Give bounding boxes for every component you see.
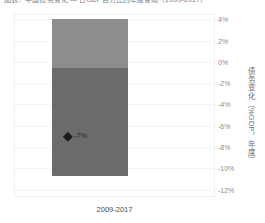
y-axis-tick-label: -2% [218, 80, 230, 87]
bar-segment-upper[interactable] [52, 19, 128, 68]
y-axis-title: 债务变化（%GDP，年度） [243, 9, 259, 223]
chart-figure: -7% 4%2%0%-2%-4%-6%-8%-10%-12% 债务变化（%GDP… [0, 9, 265, 223]
y-axis-tick-label: 2% [218, 37, 228, 44]
diamond-marker-icon [63, 131, 73, 141]
y-axis-tick-labels: 4%2%0%-2%-4%-6%-8%-10%-12% [218, 9, 242, 223]
stacked-bar[interactable] [52, 19, 128, 176]
gridline [15, 190, 214, 191]
data-point-label: -7% [74, 133, 87, 141]
y-axis-tick-label: 0% [218, 58, 228, 65]
data-point-marker-group[interactable]: -7% [64, 133, 87, 141]
y-axis-tick-label: -4% [218, 101, 230, 108]
y-axis-tick-label: -6% [218, 122, 230, 129]
y-axis-tick-label: -8% [218, 144, 230, 151]
plot-area: -7% [14, 14, 215, 197]
y-axis-title-text: 债务变化（%GDP，年度） [246, 67, 257, 165]
page-title: 图表：中国债务变化 — 占GDP百分比的年度变动（2009-2017） [4, 0, 207, 4]
y-axis-tick-label: -12% [218, 186, 234, 193]
header-strip: 图表：中国债务变化 — 占GDP百分比的年度变动（2009-2017） [0, 0, 265, 9]
bar-segment-lower[interactable] [52, 68, 128, 176]
y-axis-tick-label: 4% [218, 16, 228, 23]
y-axis-tick-label: -10% [218, 165, 234, 172]
x-axis-category-label: 2009-2017 [14, 205, 215, 214]
